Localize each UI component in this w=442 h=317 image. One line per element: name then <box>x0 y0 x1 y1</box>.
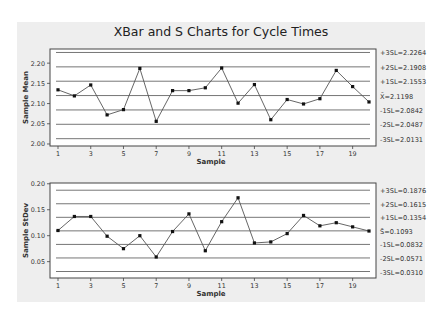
data-point-marker <box>89 83 92 86</box>
plot-frame <box>50 49 376 146</box>
x-tick-label: 7 <box>154 150 158 158</box>
data-point-marker <box>236 196 239 199</box>
data-point-marker <box>106 235 109 238</box>
data-point-marker <box>220 66 223 69</box>
x-tick-label: 1 <box>56 282 60 290</box>
x-tick-label: 17 <box>316 150 324 158</box>
control-charts: +3SL=2.2264+2SL=2.1908+1SL=2.1553X̄=2.11… <box>0 0 442 317</box>
y-tick-label: 2.20 <box>31 60 45 68</box>
data-point-marker <box>73 94 76 97</box>
data-point-marker <box>335 69 338 72</box>
data-point-marker <box>367 100 370 103</box>
x-tick-label: 13 <box>250 150 258 158</box>
x-tick-label: 1 <box>56 150 60 158</box>
data-point-marker <box>204 86 207 89</box>
data-point-marker <box>236 102 239 105</box>
xbar-chart: +3SL=2.2264+2SL=2.1908+1SL=2.1553X̄=2.11… <box>22 49 426 166</box>
data-point-marker <box>187 89 190 92</box>
x-tick-label: 17 <box>316 282 324 290</box>
y-tick-label: 2.05 <box>31 120 45 128</box>
data-point-marker <box>89 215 92 218</box>
y-axis-label: Sample StDev <box>22 202 30 258</box>
control-limit-label: -2SL=0.0571 <box>380 255 423 263</box>
y-tick-label: 0.20 <box>31 180 45 188</box>
x-tick-label: 9 <box>187 150 191 158</box>
control-limit-label: +2SL=2.1908 <box>380 64 426 72</box>
control-limit-label: +3SL=2.2264 <box>380 49 426 57</box>
control-limit-label: -3SL=0.0310 <box>380 269 423 277</box>
data-point-marker <box>155 255 158 258</box>
control-limit-label: +2SL=0.1615 <box>380 201 426 209</box>
data-point-marker <box>171 89 174 92</box>
data-point-marker <box>138 234 141 237</box>
data-point-marker <box>253 83 256 86</box>
data-point-marker <box>318 97 321 100</box>
x-tick-label: 13 <box>250 282 258 290</box>
data-point-marker <box>56 88 59 91</box>
data-point-marker <box>204 249 207 252</box>
y-tick-label: 0.10 <box>31 232 45 240</box>
s-chart: +3SL=0.1876+2SL=0.1615+1SL=0.1354S̄=0.10… <box>22 180 426 298</box>
y-tick-label: 2.10 <box>31 100 45 108</box>
y-tick-label: 2.00 <box>31 140 45 148</box>
x-tick-label: 11 <box>218 282 226 290</box>
y-tick-label: 0.15 <box>31 206 45 214</box>
data-point-marker <box>220 220 223 223</box>
control-limit-label: -1SL=2.0842 <box>380 107 423 115</box>
x-axis-label: Sample <box>196 290 225 298</box>
control-limit-label: +3SL=0.1876 <box>380 187 426 195</box>
y-tick-label: 0.05 <box>31 258 45 266</box>
data-point-marker <box>73 215 76 218</box>
data-point-marker <box>302 102 305 105</box>
control-limit-label: -2SL=2.0487 <box>380 121 423 129</box>
x-tick-label: 15 <box>283 282 291 290</box>
data-point-marker <box>187 212 190 215</box>
data-point-marker <box>367 229 370 232</box>
x-tick-label: 19 <box>349 282 357 290</box>
y-axis-label: Sample Mean <box>22 71 30 124</box>
x-tick-label: 19 <box>349 150 357 158</box>
data-point-marker <box>269 118 272 121</box>
x-tick-label: 7 <box>154 282 158 290</box>
x-tick-label: 5 <box>121 282 125 290</box>
data-point-marker <box>155 120 158 123</box>
x-tick-label: 5 <box>121 150 125 158</box>
data-point-marker <box>269 240 272 243</box>
x-axis-label: Sample <box>196 158 225 166</box>
data-point-marker <box>286 98 289 101</box>
control-limit-label: S̄=0.1093 <box>380 228 413 236</box>
control-limit-label: -3SL=2.0131 <box>380 136 423 144</box>
data-point-marker <box>106 113 109 116</box>
data-point-marker <box>122 108 125 111</box>
data-point-marker <box>56 229 59 232</box>
data-point-marker <box>318 224 321 227</box>
x-tick-label: 9 <box>187 282 191 290</box>
data-point-marker <box>302 214 305 217</box>
data-point-marker <box>253 241 256 244</box>
control-limit-label: -1SL=0.0832 <box>380 241 423 249</box>
control-limit-label: +1SL=2.1553 <box>380 78 426 86</box>
control-limit-label: +1SL=0.1354 <box>380 214 426 222</box>
data-point-marker <box>351 225 354 228</box>
data-point-marker <box>286 232 289 235</box>
y-tick-label: 2.15 <box>31 80 45 88</box>
data-point-marker <box>335 221 338 224</box>
x-tick-label: 3 <box>89 282 93 290</box>
data-point-marker <box>171 230 174 233</box>
x-tick-label: 11 <box>218 150 226 158</box>
data-point-marker <box>138 67 141 70</box>
x-tick-label: 15 <box>283 150 291 158</box>
control-limit-label: X̄=2.1198 <box>380 92 413 100</box>
data-point-marker <box>122 247 125 250</box>
x-tick-label: 3 <box>89 150 93 158</box>
data-point-marker <box>351 85 354 88</box>
